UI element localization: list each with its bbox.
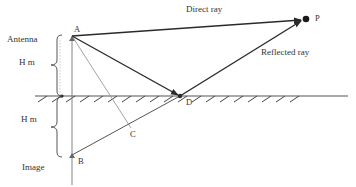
- point-label-b: B: [78, 156, 84, 166]
- line-b-to-d: [72, 96, 180, 155]
- antenna-label: Antenna: [7, 34, 38, 44]
- image-label: Image: [22, 162, 45, 172]
- point-label-a: A: [74, 24, 81, 34]
- receiver-point-p: [303, 16, 310, 23]
- direct-ray-line: [72, 20, 301, 36]
- point-label-c: C: [130, 129, 136, 139]
- line-a-to-c: [72, 36, 131, 128]
- direct-ray-label: Direct ray: [186, 4, 223, 14]
- lower-height-label: H m: [21, 114, 37, 124]
- point-label-p: P: [315, 13, 320, 23]
- reflected-ray-line: [180, 21, 301, 96]
- lower-height-brace: [51, 97, 62, 157]
- ground-hatching: [38, 96, 299, 102]
- two-ray-reflection-diagram: Direct ray Reflected ray Antenna H m H m…: [0, 0, 356, 187]
- incident-ray-line: [72, 36, 178, 95]
- reflection-point-d: [178, 94, 182, 98]
- reflected-ray-label: Reflected ray: [261, 47, 310, 57]
- upper-height-brace: [51, 35, 62, 96]
- upper-height-label: H m: [19, 57, 35, 67]
- point-label-d: D: [186, 97, 192, 107]
